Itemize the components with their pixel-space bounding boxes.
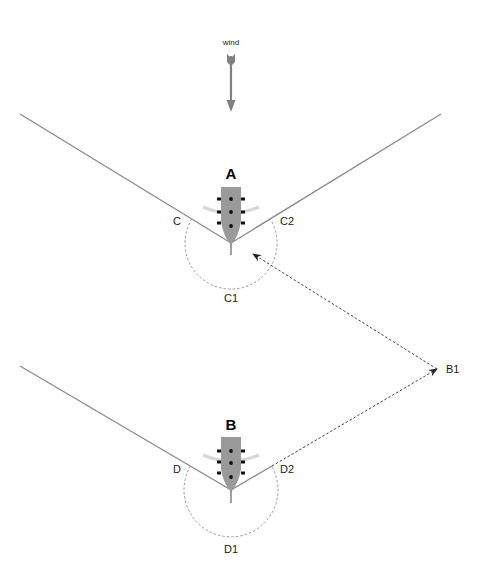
ship-b-label: B: [226, 416, 237, 433]
ship-b-icon: [217, 437, 245, 503]
path-b-to-b1: [272, 369, 437, 466]
waypoint-b1-label: B1: [446, 363, 459, 375]
ship-a-right-limit-line: [231, 114, 441, 243]
ship-b-left-limit-line: [20, 366, 231, 490]
arc-label-c1: C1: [224, 292, 238, 304]
wind-arrow-icon: [227, 54, 236, 112]
ship-a-icon: [217, 187, 245, 255]
arc-label-d2: D2: [280, 463, 294, 475]
ship-a-group: A C C2 C1: [20, 114, 441, 304]
tacking-diagram: wind A C C2 C1: [0, 0, 484, 576]
arc-label-c: C: [173, 215, 181, 227]
ship-b-group: B D D2 D1: [20, 366, 294, 555]
arc-label-d: D: [173, 463, 181, 475]
arc-label-d1: D1: [224, 543, 238, 555]
ship-a-left-limit-line: [20, 114, 231, 243]
wind-label: wind: [222, 38, 239, 47]
wind-indicator: wind: [222, 38, 239, 112]
arc-label-c2: C2: [280, 215, 294, 227]
course-path: B1: [253, 254, 459, 466]
ship-a-label: A: [226, 165, 237, 182]
path-b1-to-a: [253, 254, 437, 369]
